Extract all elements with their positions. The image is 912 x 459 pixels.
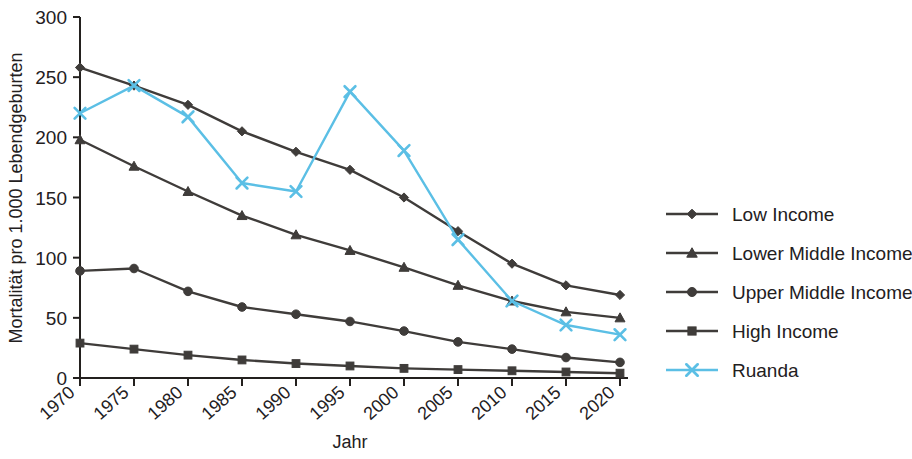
x-tick-label: 1980	[144, 382, 187, 424]
data-point-marker	[687, 287, 696, 296]
y-axis-title: Mortalität pro 1.000 Lebendgeburten	[6, 52, 26, 343]
legend-item-low-income[interactable]: Low Income	[666, 204, 834, 225]
data-point-marker	[615, 290, 624, 299]
data-point-marker	[562, 353, 571, 362]
legend-item-upper-middle-income[interactable]: Upper Middle Income	[666, 282, 912, 303]
series-high-income	[76, 339, 624, 377]
x-tick-label: 2005	[414, 382, 457, 424]
data-point-marker	[184, 351, 192, 359]
x-tick-label: 2000	[360, 382, 403, 424]
legend-label: Lower Middle Income	[732, 243, 912, 264]
data-series-group	[75, 63, 626, 377]
data-point-marker	[292, 310, 301, 319]
data-point-marker	[688, 327, 696, 335]
x-tick-label: 2010	[468, 382, 511, 424]
x-axis-title: Jahr	[332, 432, 367, 452]
data-point-marker	[616, 369, 624, 377]
data-point-marker	[508, 367, 516, 375]
data-point-marker	[346, 362, 354, 370]
legend-item-high-income[interactable]: High Income	[666, 321, 839, 342]
data-point-marker	[346, 317, 355, 326]
chart-legend: Low IncomeLower Middle IncomeUpper Middl…	[666, 204, 912, 381]
data-point-marker	[76, 339, 84, 347]
series-lower-middle-income	[75, 135, 625, 322]
series-line	[80, 269, 620, 363]
line-chart-canvas: Mortalität pro 1.000 Lebendgeburten Jahr…	[0, 0, 912, 459]
x-tick-label: 1995	[306, 382, 349, 424]
data-point-marker	[616, 358, 625, 367]
series-ruanda	[75, 80, 626, 340]
data-point-marker	[400, 327, 409, 336]
x-tick-label: 1975	[90, 382, 133, 424]
legend-label: Ruanda	[732, 360, 799, 381]
data-point-marker	[400, 364, 408, 372]
data-point-marker	[237, 127, 246, 136]
data-point-marker	[130, 345, 138, 353]
data-point-marker	[238, 303, 247, 312]
data-point-marker	[687, 209, 697, 219]
data-point-marker	[562, 368, 570, 376]
data-point-marker	[76, 267, 85, 276]
legend-label: High Income	[732, 321, 839, 342]
x-tick-label: 2020	[576, 382, 619, 424]
data-point-marker	[291, 147, 300, 156]
data-point-marker	[454, 338, 463, 347]
y-tick-label: 200	[35, 127, 67, 148]
data-point-marker	[508, 345, 517, 354]
legend-label: Upper Middle Income	[732, 282, 912, 303]
y-tick-label: 300	[35, 7, 67, 28]
y-tick-label: 100	[35, 248, 67, 269]
data-point-marker	[75, 63, 84, 72]
data-point-marker	[399, 145, 410, 156]
data-point-marker	[561, 281, 570, 290]
y-axis-tick-group: 050100150200250300	[35, 7, 80, 389]
y-tick-label: 150	[35, 188, 67, 209]
data-point-marker	[238, 356, 246, 364]
legend-label: Low Income	[732, 204, 834, 225]
data-point-marker	[345, 165, 354, 174]
legend-item-ruanda[interactable]: Ruanda	[666, 360, 799, 381]
data-point-marker	[130, 264, 139, 273]
x-tick-label: 1990	[252, 382, 295, 424]
series-line	[80, 86, 620, 335]
x-tick-label: 1985	[198, 382, 241, 424]
legend-item-lower-middle-income[interactable]: Lower Middle Income	[666, 243, 912, 264]
data-point-marker	[345, 86, 356, 97]
data-point-marker	[454, 366, 462, 374]
y-tick-label: 250	[35, 67, 67, 88]
x-axis-tick-group: 1970197519801985199019952000200520102015…	[36, 378, 620, 424]
data-point-marker	[184, 287, 193, 296]
chart-figure: Mortalität pro 1.000 Lebendgeburten Jahr…	[0, 0, 912, 459]
data-point-marker	[183, 100, 192, 109]
data-point-marker	[183, 111, 194, 122]
x-tick-label: 1970	[36, 382, 79, 424]
x-tick-label: 2015	[522, 382, 565, 424]
data-point-marker	[75, 135, 85, 144]
y-tick-label: 50	[46, 308, 67, 329]
data-point-marker	[292, 360, 300, 368]
